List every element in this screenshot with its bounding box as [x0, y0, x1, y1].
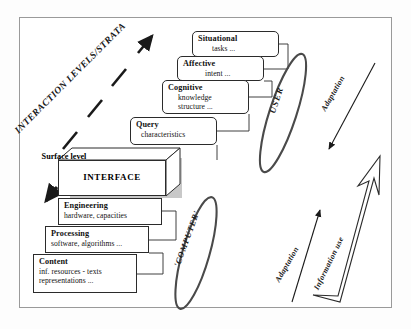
adaptation-top-arrow	[329, 63, 375, 149]
stratum-box-cognitive[interactable]: Cognitive knowledge structure ...	[162, 80, 249, 114]
stratum-sub: tasks ...	[212, 44, 274, 53]
figure-canvas: Situational tasks ... Affective intent .…	[0, 0, 411, 329]
stratum-sub-line1: knowledge	[178, 93, 244, 102]
stratum-head: Processing	[51, 229, 144, 239]
stratum-head: Affective	[183, 59, 259, 69]
stratum-head: Situational	[198, 34, 274, 44]
stratum-sub: characteristics	[141, 130, 212, 139]
diagram-stage: Situational tasks ... Affective intent .…	[0, 0, 411, 329]
surface-level-label: Surface level	[16, 152, 112, 161]
stratum-head: Query	[136, 120, 212, 130]
stratum-sub-line1: inf. resources - texts	[39, 267, 132, 276]
stratum-sub-line2: structure ...	[178, 102, 244, 111]
stratum-box-engineering[interactable]: Engineering hardware, capacities	[58, 198, 162, 225]
stratum-box-query[interactable]: Query characteristics	[130, 117, 217, 145]
interface-label: INTERFACE	[58, 172, 166, 182]
stratum-sub: software, algorithms ...	[51, 239, 144, 248]
stratum-head: Content	[39, 257, 132, 267]
stratum-sub-line2: representations ...	[39, 276, 132, 285]
stratum-sub: hardware, capacities	[64, 211, 157, 220]
stratum-box-situational[interactable]: Situational tasks ...	[192, 31, 279, 57]
stratum-box-affective[interactable]: Affective intent ...	[177, 56, 264, 81]
stratum-box-processing[interactable]: Processing software, algorithms ...	[45, 226, 149, 253]
stratum-head: Engineering	[64, 201, 157, 211]
stratum-sub: intent ...	[205, 69, 259, 78]
stratum-head: Cognitive	[168, 83, 244, 93]
stratum-box-content[interactable]: Content inf. resources - texts represent…	[33, 254, 137, 293]
